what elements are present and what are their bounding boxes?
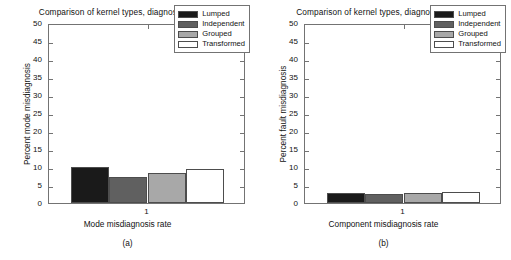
y-tick-label: 5 bbox=[272, 182, 298, 190]
x-tick-mark bbox=[404, 25, 405, 29]
y-tick-label: 40 bbox=[16, 56, 42, 64]
bar bbox=[109, 177, 147, 203]
y-tick-mark bbox=[49, 79, 53, 80]
legend-b: LumpedIndependentGroupedTransformed bbox=[430, 5, 506, 53]
y-tick-mark bbox=[305, 61, 309, 62]
bar bbox=[365, 194, 403, 203]
legend-item: Transformed bbox=[178, 39, 245, 49]
y-tick-mark bbox=[49, 61, 53, 62]
y-tick-mark bbox=[305, 151, 309, 152]
y-tick-label: 35 bbox=[272, 74, 298, 82]
legend-item: Lumped bbox=[178, 9, 245, 19]
bar bbox=[442, 192, 480, 203]
legend-label: Lumped bbox=[202, 10, 229, 18]
x-axis-tick-label-a: 1 bbox=[144, 207, 148, 216]
y-tick-mark bbox=[49, 115, 53, 116]
legend-a: LumpedIndependentGroupedTransformed bbox=[174, 5, 250, 53]
y-tick-mark bbox=[240, 151, 244, 152]
chart-panel-a: Comparison of kernel types, diagnosing m… bbox=[0, 0, 255, 260]
y-tick-label: 35 bbox=[16, 74, 42, 82]
y-tick-mark bbox=[49, 133, 53, 134]
legend-swatch bbox=[434, 31, 454, 38]
y-tick-mark bbox=[496, 133, 500, 134]
bar bbox=[186, 169, 224, 203]
bar bbox=[71, 167, 109, 203]
y-tick-mark bbox=[240, 97, 244, 98]
y-tick-label: 40 bbox=[272, 56, 298, 64]
legend-item: Grouped bbox=[434, 29, 501, 39]
y-tick-label: 25 bbox=[16, 110, 42, 118]
panel-caption-a: (a) bbox=[0, 238, 255, 248]
y-tick-label: 15 bbox=[272, 146, 298, 154]
y-axis-tick-labels-a: 05101520253035404550 bbox=[16, 24, 44, 204]
y-tick-mark bbox=[305, 97, 309, 98]
bar bbox=[148, 173, 186, 203]
legend-swatch bbox=[434, 21, 454, 28]
legend-label: Grouped bbox=[202, 30, 232, 38]
x-axis-title-b: Component misdiagnosis rate bbox=[256, 219, 511, 229]
y-tick-mark bbox=[240, 187, 244, 188]
legend-item: Transformed bbox=[434, 39, 501, 49]
y-tick-label: 10 bbox=[16, 164, 42, 172]
y-tick-mark bbox=[496, 79, 500, 80]
y-tick-mark bbox=[496, 151, 500, 152]
legend-item: Independent bbox=[434, 19, 501, 29]
legend-label: Lumped bbox=[458, 10, 485, 18]
y-tick-mark bbox=[49, 187, 53, 188]
y-tick-mark bbox=[496, 61, 500, 62]
legend-label: Grouped bbox=[458, 30, 488, 38]
legend-item: Independent bbox=[178, 19, 245, 29]
y-tick-mark bbox=[240, 79, 244, 80]
y-tick-mark bbox=[49, 43, 53, 44]
y-tick-label: 20 bbox=[272, 128, 298, 136]
chart-panel-b: Comparison of kernel types, diagnosing s… bbox=[256, 0, 511, 260]
x-axis-title-a: Mode misdiagnosis rate bbox=[0, 219, 255, 229]
y-tick-label: 0 bbox=[272, 200, 298, 208]
legend-swatch bbox=[178, 11, 198, 18]
legend-swatch bbox=[434, 11, 454, 18]
y-tick-mark bbox=[496, 115, 500, 116]
y-tick-mark bbox=[305, 115, 309, 116]
y-tick-label: 15 bbox=[16, 146, 42, 154]
y-tick-label: 10 bbox=[272, 164, 298, 172]
y-tick-label: 30 bbox=[16, 92, 42, 100]
y-axis-title-wrap-b: Percent fault misdiagnosis bbox=[260, 24, 272, 204]
y-tick-mark bbox=[240, 61, 244, 62]
legend-label: Independent bbox=[458, 20, 500, 28]
bar bbox=[327, 193, 365, 203]
legend-label: Transformed bbox=[202, 40, 245, 48]
y-tick-mark bbox=[240, 115, 244, 116]
y-tick-mark bbox=[49, 97, 53, 98]
legend-swatch bbox=[178, 31, 198, 38]
panel-caption-b: (b) bbox=[256, 238, 511, 248]
y-tick-mark bbox=[49, 151, 53, 152]
y-tick-mark bbox=[240, 169, 244, 170]
y-tick-mark bbox=[496, 169, 500, 170]
legend-label: Transformed bbox=[458, 40, 501, 48]
y-tick-label: 50 bbox=[272, 20, 298, 28]
y-tick-label: 20 bbox=[16, 128, 42, 136]
figure-two-bar-charts: Comparison of kernel types, diagnosing m… bbox=[0, 0, 511, 260]
x-tick-mark bbox=[148, 25, 149, 29]
y-tick-mark bbox=[496, 97, 500, 98]
y-tick-mark bbox=[496, 187, 500, 188]
y-tick-label: 45 bbox=[16, 38, 42, 46]
y-tick-label: 0 bbox=[16, 200, 42, 208]
legend-swatch bbox=[434, 41, 454, 48]
x-axis-tick-label-b: 1 bbox=[400, 207, 404, 216]
y-tick-label: 30 bbox=[272, 92, 298, 100]
legend-item: Lumped bbox=[434, 9, 501, 19]
bar bbox=[404, 193, 442, 203]
legend-label: Independent bbox=[202, 20, 244, 28]
y-tick-label: 45 bbox=[272, 38, 298, 46]
y-tick-mark bbox=[49, 169, 53, 170]
legend-swatch bbox=[178, 41, 198, 48]
y-tick-mark bbox=[305, 169, 309, 170]
legend-swatch bbox=[178, 21, 198, 28]
y-tick-mark bbox=[305, 187, 309, 188]
y-tick-mark bbox=[305, 79, 309, 80]
y-axis-title-wrap-a: Percent mode misdiagnosis bbox=[4, 24, 16, 204]
y-tick-mark bbox=[305, 133, 309, 134]
y-tick-label: 5 bbox=[16, 182, 42, 190]
y-axis-tick-labels-b: 05101520253035404550 bbox=[272, 24, 300, 204]
